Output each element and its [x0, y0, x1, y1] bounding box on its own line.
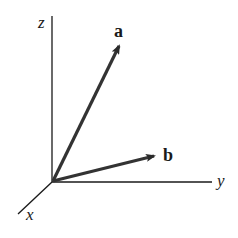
z-axis-label: z: [38, 14, 45, 31]
vector-a: [53, 46, 119, 181]
vector-b-label: b: [163, 146, 173, 164]
vector-diagram: z y x a b: [0, 0, 238, 238]
vector-a-label: a: [114, 22, 123, 40]
x-axis-label: x: [26, 206, 34, 223]
x-axis: [18, 182, 52, 214]
vector-b: [53, 156, 154, 181]
y-axis-label: y: [217, 172, 225, 189]
